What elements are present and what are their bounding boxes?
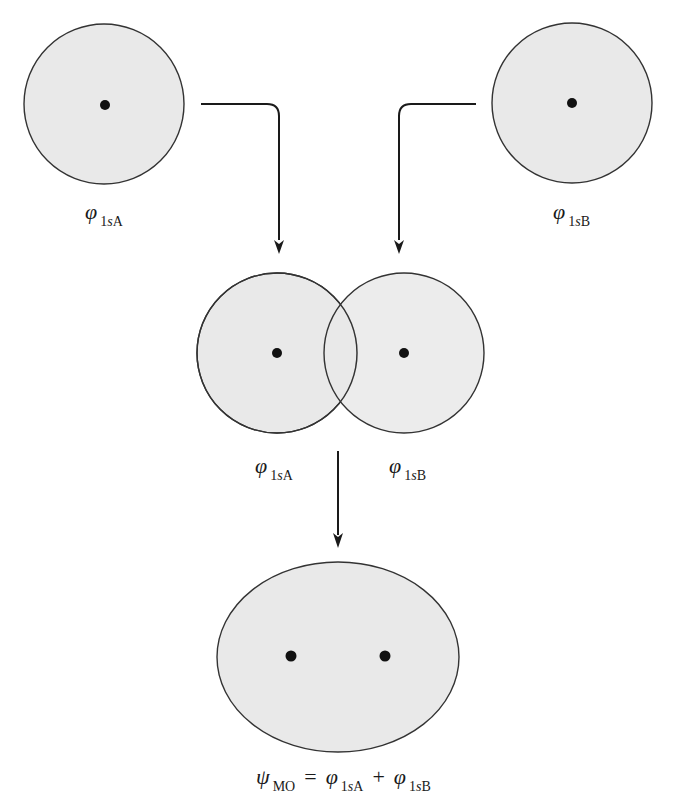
- subscript: 1sA: [100, 214, 123, 229]
- subscript-suffix: B: [417, 468, 426, 483]
- phi-symbol: φ: [326, 764, 338, 789]
- label-phi-1sA-overlap: φ1sA: [255, 455, 293, 477]
- subscript-suffix: A: [113, 214, 123, 229]
- subscript: 1sB: [568, 214, 590, 229]
- nucleus-b: [380, 651, 391, 662]
- nucleus-a: [286, 651, 297, 662]
- phi-symbol: φ: [394, 764, 406, 789]
- nucleus-b: [567, 98, 577, 108]
- phi-symbol: φ: [85, 199, 97, 224]
- nucleus-a: [100, 100, 110, 110]
- label-phi-1sB-top: φ1sB: [553, 201, 590, 223]
- subscript-suffix: A: [283, 468, 293, 483]
- subscript-prefix: 1: [341, 779, 348, 794]
- phi-symbol: φ: [389, 453, 401, 478]
- subscript-prefix: 1: [409, 779, 416, 794]
- arrow-a-to-overlap-icon: [201, 104, 279, 240]
- psi-symbol: ψ: [256, 764, 270, 789]
- label-phi-1sB-overlap: φ1sB: [389, 455, 426, 477]
- nucleus-b: [399, 348, 409, 358]
- molecular-orbital: [217, 562, 459, 752]
- subscript: 1sB: [409, 779, 431, 794]
- phi-symbol: φ: [553, 199, 565, 224]
- subscript-suffix: B: [581, 214, 590, 229]
- phi-symbol: φ: [255, 453, 267, 478]
- subscript: 1sB: [404, 468, 426, 483]
- label-phi-1sA-top: φ1sA: [85, 201, 123, 223]
- subscript-mo: MO: [273, 779, 296, 794]
- molecular-orbital-diagram: [0, 0, 678, 811]
- subscript-suffix: B: [421, 779, 430, 794]
- plus-sign: +: [372, 764, 384, 789]
- arrow-b-to-overlap-icon: [399, 104, 476, 240]
- subscript: 1sA: [341, 779, 364, 794]
- nucleus-a: [272, 348, 282, 358]
- overlapping-orbitals: [197, 273, 484, 433]
- arrowhead-icon: [394, 240, 404, 254]
- arrowhead-icon: [333, 533, 343, 548]
- subscript-suffix: A: [353, 779, 363, 794]
- subscript: 1sA: [270, 468, 293, 483]
- atomic-orbital-a: [24, 24, 184, 184]
- mo-equation: ψMO=φ1sA+φ1sB: [256, 766, 431, 788]
- atomic-orbital-b: [492, 23, 652, 183]
- equals-sign: =: [304, 764, 316, 789]
- arrowhead-icon: [274, 240, 284, 254]
